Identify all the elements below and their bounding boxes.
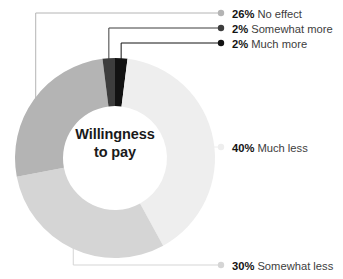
legend-dot-much-more: [218, 40, 224, 46]
donut-slice-no-effect[interactable]: [15, 59, 108, 177]
legend-value-somewhat-more: 2%: [232, 23, 248, 35]
legend-label-somewhat-less: Somewhat less: [257, 260, 333, 272]
legend-label-much-less: Much less: [257, 142, 307, 154]
leader-line-somewhat-more: [109, 28, 221, 60]
legend-item-somewhat-more[interactable]: 2%Somewhat more: [232, 24, 333, 35]
legend-value-no-effect: 26%: [232, 8, 254, 20]
donut-chart-figure: Willingness to pay 26%No effect 2%Somewh…: [0, 0, 343, 279]
legend-value-much-more: 2%: [232, 38, 248, 50]
legend-dot-no-effect: [218, 10, 224, 16]
legend-label-somewhat-more: Somewhat more: [251, 23, 332, 35]
leader-line-much-more: [121, 43, 221, 60]
legend-dots: [218, 10, 224, 268]
legend-label-no-effect: No effect: [257, 8, 302, 20]
legend-dot-somewhat-more: [218, 25, 224, 31]
legend-item-no-effect[interactable]: 26%No effect: [232, 9, 302, 20]
legend-dot-much-less: [218, 144, 224, 150]
legend-value-much-less: 40%: [232, 142, 254, 154]
legend-item-much-more[interactable]: 2%Much more: [232, 39, 307, 50]
legend-label-much-more: Much more: [251, 38, 307, 50]
donut-segments: [15, 58, 215, 258]
legend-value-somewhat-less: 30%: [232, 260, 254, 272]
legend-dot-somewhat-less: [218, 262, 224, 268]
legend-item-much-less[interactable]: 40%Much less: [232, 143, 308, 154]
legend-item-somewhat-less[interactable]: 30%Somewhat less: [232, 261, 333, 272]
donut-slice-somewhat-less[interactable]: [17, 168, 163, 258]
